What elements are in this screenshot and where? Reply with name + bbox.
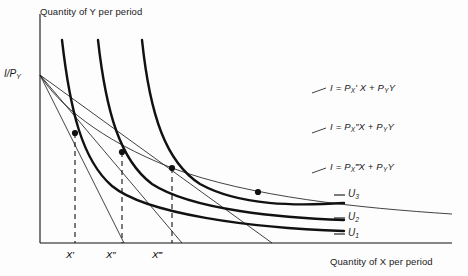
price-consumption-curve bbox=[40, 75, 452, 214]
price-consumption-marker bbox=[255, 189, 261, 195]
tangency-points-group bbox=[72, 130, 261, 195]
leader-line-eq2 bbox=[312, 128, 326, 133]
u1-subscript: 1 bbox=[355, 232, 359, 239]
eq1-suffix: X + P bbox=[357, 82, 384, 93]
eq2-subscript: X bbox=[351, 126, 356, 133]
y-intercept-text: I/P bbox=[4, 68, 16, 79]
x-axis-tick-label-3: X‴ bbox=[152, 249, 161, 260]
indifference-curve-label-u1: U1 bbox=[348, 227, 359, 239]
eq3-suffix-subscript: Y bbox=[383, 166, 388, 173]
x-axis-tick-label-1: X′ bbox=[66, 249, 74, 260]
eq2-suffix: X + P bbox=[358, 121, 383, 132]
leader-line-eq1 bbox=[312, 88, 326, 93]
u3-subscript: 3 bbox=[355, 193, 359, 200]
eq1-prefix: I = P bbox=[330, 82, 351, 93]
equation-leader-lines bbox=[312, 88, 326, 173]
indifference-curve-u1 bbox=[62, 40, 344, 231]
eq3-prefix: I = P bbox=[330, 161, 351, 172]
tick1-primes: ′ bbox=[72, 249, 73, 260]
indifference-curve-label-u3: U3 bbox=[348, 188, 359, 200]
tick2-primes: ″ bbox=[112, 249, 115, 260]
eq2-tail: Y bbox=[387, 121, 394, 132]
budget-line-3-equation: I = PX‴X + PYY bbox=[330, 161, 394, 173]
eq1-subscript: X bbox=[351, 87, 356, 94]
eq2-prefix: I = P bbox=[330, 121, 351, 132]
u2-subscript: 2 bbox=[355, 216, 359, 223]
budget-line-2-equation: I = PX″X + PYY bbox=[330, 121, 394, 133]
x-axis-title: Quantity of X per period bbox=[330, 256, 433, 268]
tick3-primes: ‴ bbox=[158, 249, 161, 260]
x-axis-tick-label-2: X″ bbox=[106, 249, 115, 260]
y-axis-title: Quantity of Y per period bbox=[40, 6, 108, 18]
figure-root: Quantity of Y per period Quantity of X p… bbox=[0, 0, 468, 276]
eq2-suffix-subscript: Y bbox=[383, 126, 388, 133]
eq1-tail: Y bbox=[389, 82, 396, 93]
budget-line-1-equation: I = PX′ X + PYY bbox=[330, 82, 395, 94]
indifference-curves-group bbox=[62, 40, 344, 231]
indifference-curve-plot bbox=[0, 0, 468, 276]
y-intercept-label: I/PY bbox=[4, 68, 21, 80]
eq3-subscript: X bbox=[351, 166, 356, 173]
y-intercept-subscript: Y bbox=[16, 73, 21, 80]
indifference-curve-label-u2: U2 bbox=[348, 211, 359, 223]
u-leader-lines bbox=[334, 195, 345, 234]
tangency-point-1 bbox=[72, 130, 78, 136]
eq1-suffix-subscript: Y bbox=[384, 87, 389, 94]
leader-line-eq3 bbox=[312, 168, 326, 173]
price-consumption-curve-group bbox=[40, 75, 452, 214]
tangency-point-2 bbox=[119, 149, 125, 155]
eq3-suffix: X + P bbox=[358, 161, 383, 172]
tangency-point-3 bbox=[169, 165, 175, 171]
eq3-tail: Y bbox=[387, 161, 394, 172]
